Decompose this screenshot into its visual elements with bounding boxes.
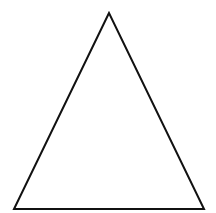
diagram-canvas (0, 0, 216, 213)
triangle-shape (14, 13, 204, 209)
triangle-diagram (0, 0, 216, 213)
